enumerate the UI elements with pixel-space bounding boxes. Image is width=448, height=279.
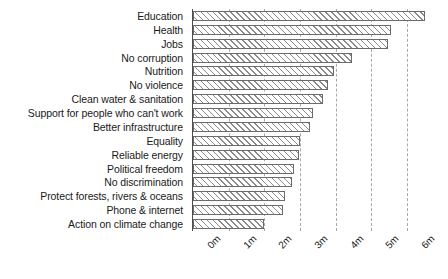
- category-label: Clean water & sanitation: [0, 92, 188, 106]
- bar-row: [193, 189, 441, 203]
- bar-row: [193, 65, 441, 79]
- bar-row: [193, 51, 441, 65]
- bar-row: [193, 92, 441, 106]
- bar-row: [193, 203, 441, 217]
- bar: [193, 53, 352, 63]
- bar-row: [193, 9, 441, 23]
- bar: [193, 150, 299, 160]
- category-label: Action on climate change: [0, 217, 188, 231]
- category-label: Support for people who can't work: [0, 106, 188, 120]
- bar: [193, 80, 328, 90]
- category-label: Health: [0, 23, 188, 37]
- x-tick-label: 4m: [348, 233, 366, 251]
- x-axis-tick-labels: 0m1m2m3m4m5m6m: [193, 233, 448, 279]
- x-tick-label: 1m: [241, 233, 259, 251]
- bar-chart: EducationHealthJobsNo corruptionNutritio…: [0, 0, 448, 279]
- x-tick-label: 0m: [205, 233, 223, 251]
- bar-row: [193, 134, 441, 148]
- bar-series: [193, 9, 441, 231]
- category-label: Political freedom: [0, 162, 188, 176]
- bar: [193, 164, 294, 174]
- bar: [193, 219, 264, 229]
- bar: [193, 136, 300, 146]
- category-label: Phone & internet: [0, 203, 188, 217]
- category-label: Equality: [0, 134, 188, 148]
- category-label: Jobs: [0, 37, 188, 51]
- category-label: Reliable energy: [0, 148, 188, 162]
- x-tick-label: 2m: [276, 233, 294, 251]
- bar: [193, 66, 334, 76]
- bar: [193, 94, 323, 104]
- category-label: Education: [0, 9, 188, 23]
- bar-row: [193, 120, 441, 134]
- bar: [193, 205, 283, 215]
- category-label: No violence: [0, 78, 188, 92]
- bar: [193, 108, 313, 118]
- bar-row: [193, 106, 441, 120]
- bar: [193, 122, 310, 132]
- x-tick-label: 3m: [312, 233, 330, 251]
- category-label: No discrimination: [0, 176, 188, 190]
- x-tick-label: 6m: [419, 233, 437, 251]
- bar-row: [193, 148, 441, 162]
- category-label: Nutrition: [0, 65, 188, 79]
- bar: [193, 25, 391, 35]
- plot-area: [193, 9, 441, 231]
- category-label: Better infrastructure: [0, 120, 188, 134]
- category-label-column: EducationHealthJobsNo corruptionNutritio…: [0, 9, 188, 231]
- category-label: Protect forests, rivers & oceans: [0, 189, 188, 203]
- bar-row: [193, 217, 441, 231]
- x-tick-label: 5m: [383, 233, 401, 251]
- bar-row: [193, 162, 441, 176]
- bar-row: [193, 78, 441, 92]
- bar: [193, 39, 388, 49]
- bar-row: [193, 37, 441, 51]
- bar: [193, 191, 285, 201]
- bar: [193, 177, 292, 187]
- bar: [193, 11, 425, 21]
- category-label: No corruption: [0, 51, 188, 65]
- bar-row: [193, 23, 441, 37]
- bar-row: [193, 176, 441, 190]
